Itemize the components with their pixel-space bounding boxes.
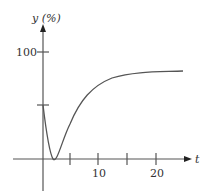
x-tick-label-20: 20 <box>150 167 164 180</box>
y-axis-arrow-icon <box>40 24 46 32</box>
y-tick-label-100: 100 <box>16 46 37 59</box>
x-axis-arrow-icon <box>184 156 192 162</box>
y-axis-label: y (%) <box>31 12 61 25</box>
data-curve <box>43 71 183 160</box>
x-axis-label: t <box>195 153 200 166</box>
chart: y (%) 100 10 20 t <box>0 0 204 196</box>
x-tick-label-10: 10 <box>92 167 106 180</box>
